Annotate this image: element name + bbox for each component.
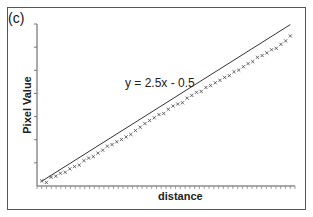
data-point <box>284 39 287 42</box>
data-point <box>82 159 85 162</box>
data-point <box>64 171 67 174</box>
data-point <box>270 48 273 51</box>
data-point <box>120 138 123 141</box>
data-point <box>96 152 99 155</box>
data-point <box>139 126 142 129</box>
data-point <box>200 90 203 93</box>
data-point <box>242 65 245 68</box>
data-point <box>256 56 259 59</box>
data-point <box>162 112 165 115</box>
data-point <box>87 156 90 159</box>
data-point <box>129 133 132 136</box>
data-point <box>157 113 160 116</box>
data-point <box>275 47 278 50</box>
data-point <box>261 54 264 57</box>
data-point <box>101 149 104 152</box>
data-point <box>289 34 292 37</box>
data-point <box>167 108 170 111</box>
fit-line <box>42 25 291 182</box>
data-point <box>265 51 268 54</box>
data-point <box>148 119 151 122</box>
data-point <box>115 140 118 143</box>
data-point <box>153 116 156 119</box>
data-point <box>232 70 235 73</box>
data-point <box>237 69 240 72</box>
data-point <box>125 135 128 138</box>
data-point <box>73 165 76 168</box>
data-point <box>218 79 221 82</box>
data-point <box>45 181 48 184</box>
data-point <box>246 62 249 65</box>
data-point <box>176 102 179 105</box>
data-point <box>214 81 217 84</box>
data-point <box>59 172 62 175</box>
data-point <box>143 122 146 125</box>
data-point <box>110 143 113 146</box>
data-point <box>190 94 193 97</box>
data-point <box>106 145 109 148</box>
data-point <box>279 43 282 46</box>
data-point <box>54 175 57 178</box>
data-point <box>186 97 189 100</box>
data-point <box>251 60 254 63</box>
data-point <box>134 129 137 132</box>
data-point <box>181 101 184 104</box>
data-point <box>78 163 81 166</box>
data-point <box>204 86 207 89</box>
data-point <box>49 176 52 179</box>
scatter-plot <box>0 0 313 217</box>
data-point <box>92 155 95 158</box>
data-point <box>68 167 71 170</box>
data-point <box>195 91 198 94</box>
data-point <box>209 84 212 87</box>
data-point <box>228 74 231 77</box>
data-point <box>171 104 174 107</box>
data-point <box>223 76 226 79</box>
